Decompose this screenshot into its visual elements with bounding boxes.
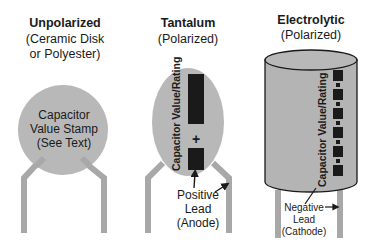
tantalum-rating-label: Capacitor Value/Rating	[170, 57, 182, 171]
electrolytic-can-top	[265, 50, 357, 70]
positive-lead-label-line3: (Anode)	[177, 216, 220, 230]
electrolytic-capacitor: Electrolytic (Polarized) Capacitor Value…	[265, 13, 357, 238]
electrolytic-right-lead	[337, 190, 343, 238]
tantalum-title: Tantalum	[161, 16, 216, 30]
electrolytic-subtitle: (Polarized)	[281, 28, 341, 42]
capacitor-types-diagram: Unpolarized (Ceramic Disk or Polyester) …	[0, 0, 367, 242]
unpolarized-capacitor: Unpolarized (Ceramic Disk or Polyester) …	[18, 16, 108, 233]
positive-lead-label-line1: Positive	[177, 188, 219, 202]
positive-lead-label-line2: Lead	[185, 202, 212, 216]
electrolytic-title: Electrolytic	[277, 13, 344, 27]
tantalum-rating-bar	[188, 74, 204, 124]
tantalum-capacitor: Tantalum (Polarized) + Capacitor Value/R…	[148, 16, 229, 233]
unpolarized-title: Unpolarized	[29, 16, 101, 30]
unpolarized-left-lead	[24, 165, 36, 233]
electrolytic-rating-label: Capacitor Value/Rating	[316, 73, 328, 187]
stamp-text-line3: (See Text)	[37, 136, 91, 150]
electrolytic-left-lead	[275, 190, 281, 238]
tantalum-subtitle: (Polarized)	[158, 32, 218, 46]
tantalum-left-lead	[148, 163, 163, 233]
tantalum-plus-sign: +	[192, 131, 200, 147]
anode-arrow-up	[194, 173, 195, 188]
unpolarized-right-lead	[88, 165, 104, 233]
negative-lead-label-line2: Lead	[293, 214, 315, 225]
electrolytic-can-body	[265, 60, 357, 192]
unpolarized-subtitle-line2: or Polyester)	[30, 47, 101, 61]
tantalum-anode-bar	[188, 148, 204, 170]
stamp-text-line1: Capacitor	[38, 108, 89, 122]
stamp-text-line2: Value Stamp	[30, 122, 98, 136]
negative-lead-label-line3: (Cathode)	[282, 226, 326, 237]
unpolarized-subtitle-line1: (Ceramic Disk	[26, 32, 105, 46]
negative-lead-label-line1: Negative	[284, 202, 324, 213]
